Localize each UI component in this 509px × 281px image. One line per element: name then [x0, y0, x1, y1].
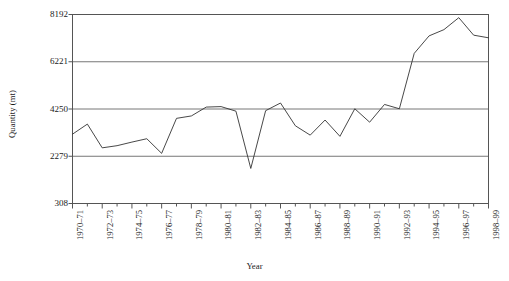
x-tick-label: 1972–73: [106, 209, 115, 239]
x-tick-label: 1984–85: [284, 209, 293, 239]
x-tick-label: 1976–77: [165, 209, 174, 239]
x-tick-label: 1970–71: [76, 209, 85, 239]
x-tick-label: 1974–75: [135, 209, 144, 239]
x-tick-label: 1988–89: [343, 209, 352, 239]
x-tick-label: 1980–81: [224, 209, 233, 239]
x-tick-label: 1994–95: [432, 209, 441, 239]
x-axis-tick-labels: 1970–711972–731974–751976–771978–791980–…: [0, 0, 509, 281]
x-tick-label: 1986–87: [314, 209, 323, 239]
x-tick-label: 1996–97: [462, 209, 471, 239]
x-tick-label: 1998–99: [492, 209, 501, 239]
x-tick-label: 1990–91: [373, 209, 382, 239]
x-tick-label: 1982–83: [254, 209, 263, 239]
x-tick-label: 1992–93: [403, 209, 412, 239]
x-tick-label: 1978–79: [195, 209, 204, 239]
x-axis-title: Year: [0, 261, 509, 271]
line-chart-figure: Quantity (mt) 3082279425062218192 1970–7…: [0, 0, 509, 281]
